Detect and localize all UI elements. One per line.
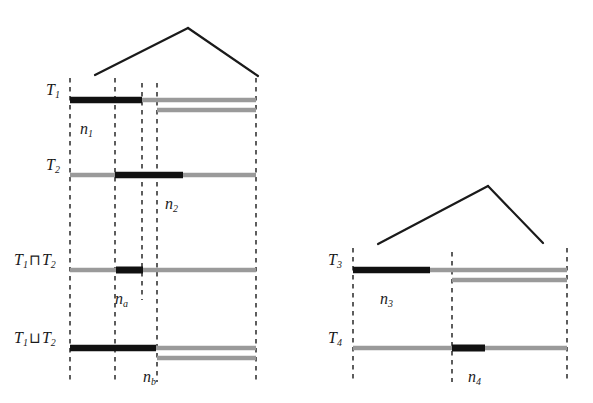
track-label-T2-text: T [46, 156, 55, 173]
track-label-join-second-subscript: 2 [51, 337, 56, 348]
track-label-join-first-term: T [14, 329, 23, 346]
join-operator-icon: ⊔ [28, 330, 42, 346]
track-label-T4: T4 [328, 330, 342, 348]
segment-label-n3: n3 [380, 291, 393, 309]
track-T1 [70, 100, 256, 110]
left-group [70, 28, 258, 382]
segment-label-n1-subscript: 1 [88, 128, 93, 139]
segment-label-nb-subscript: b [151, 376, 156, 387]
track-label-T1: T1 [46, 82, 60, 100]
segment-label-na-subscript: a [123, 298, 128, 309]
track-label-T3-subscript: 3 [337, 259, 342, 270]
segment-label-n2-subscript: 2 [173, 203, 178, 214]
track-label-T4-text: T [328, 329, 337, 346]
track-label-meet-second-subscript: 2 [51, 259, 56, 270]
track-label-T3-text: T [328, 251, 337, 268]
track-label-T1-join-T2: T1⊔T2 [14, 330, 56, 348]
segment-label-n1: n1 [80, 121, 93, 139]
segment-label-nb-text: n [143, 368, 151, 385]
segment-label-n4-text: n [468, 368, 476, 385]
track-label-T1-text: T [46, 81, 55, 98]
track-label-meet-first-term: T [14, 251, 23, 268]
segment-label-na-text: n [115, 290, 123, 307]
segment-label-n4: n4 [468, 369, 481, 387]
right-bracket-icon [378, 186, 543, 244]
left-guide-lines [70, 78, 256, 382]
track-label-T1-subscript: 1 [55, 89, 60, 100]
track-T3 [353, 270, 567, 280]
segment-label-n3-subscript: 3 [388, 298, 393, 309]
track-T1-join-T2 [70, 348, 256, 358]
segment-label-nb: nb [143, 369, 156, 387]
diagram-canvas [0, 0, 593, 403]
track-label-T4-subscript: 4 [337, 337, 342, 348]
segment-label-n2-text: n [165, 195, 173, 212]
track-label-T1-meet-T2: T1⊓T2 [14, 252, 56, 270]
track-label-T2-subscript: 2 [55, 164, 60, 175]
segment-label-na: na [115, 291, 128, 309]
right-group [353, 186, 567, 382]
segment-label-n2: n2 [165, 196, 178, 214]
track-label-T2: T2 [46, 157, 60, 175]
meet-operator-icon: ⊓ [28, 252, 42, 268]
left-bracket-icon [95, 28, 258, 76]
segment-label-n1-text: n [80, 120, 88, 137]
interval-diagram-figure: T1 T2 T1⊓T2 T1⊔T2 n1 n2 na nb T3 T4 n3 n… [0, 0, 593, 403]
track-label-meet-second-term: T [42, 251, 51, 268]
segment-label-n4-subscript: 4 [476, 376, 481, 387]
track-label-T3: T3 [328, 252, 342, 270]
track-label-join-second-term: T [42, 329, 51, 346]
segment-label-n3-text: n [380, 290, 388, 307]
